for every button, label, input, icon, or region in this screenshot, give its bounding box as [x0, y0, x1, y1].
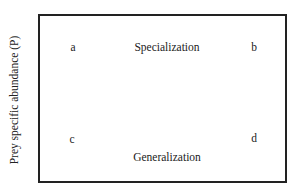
corner-label-b: b — [251, 41, 257, 53]
corner-label-c: c — [69, 133, 74, 145]
corner-label-d: d — [251, 132, 257, 144]
generalization-label: Generalization — [133, 151, 201, 163]
corner-label-a: a — [70, 41, 75, 53]
specialization-label: Specialization — [134, 41, 199, 53]
y-axis-label: Prey specific abundance (P) — [8, 36, 20, 165]
